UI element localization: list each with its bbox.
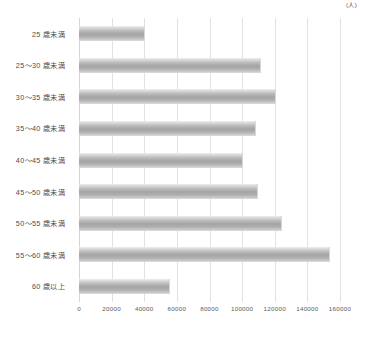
bar (79, 216, 282, 231)
value-tick-label: 100000 (231, 305, 253, 312)
value-tick-label: 0 (77, 305, 81, 312)
bar (79, 279, 170, 294)
category-label: 35～40 歳未満 (0, 113, 72, 145)
value-tick-label: 120000 (264, 305, 286, 312)
category-label: 55～60 歳未満 (0, 239, 72, 271)
bar (79, 89, 276, 104)
bar (79, 153, 243, 168)
value-axis-ticks: 0200004000060000800001000001200001400001… (79, 305, 340, 319)
value-tick-label: 140000 (296, 305, 318, 312)
bar (79, 121, 256, 136)
bar (79, 184, 258, 199)
bar-row (79, 176, 340, 208)
category-label: 60 歳以上 (0, 271, 72, 303)
category-label: 25～30 歳未満 (0, 50, 72, 82)
value-tick-label: 80000 (200, 305, 219, 312)
value-axis-unit: (人) (346, 0, 357, 9)
bar (79, 26, 145, 41)
value-tick-label: 60000 (168, 305, 187, 312)
category-label: 30～35 歳未満 (0, 81, 72, 113)
bar-row (79, 271, 340, 303)
bar-row (79, 207, 340, 239)
bar-row (79, 50, 340, 82)
category-label: 45～50 歳未満 (0, 176, 72, 208)
bar-row (79, 81, 340, 113)
category-label: 50～55 歳未満 (0, 207, 72, 239)
bar (79, 58, 261, 73)
category-axis-labels: 25 歳未満25～30 歳未満30～35 歳未満35～40 歳未満40～45 歳… (0, 18, 72, 302)
bar-row (79, 144, 340, 176)
bar-row (79, 113, 340, 145)
bar (79, 247, 330, 262)
category-label: 40～45 歳未満 (0, 144, 72, 176)
bar-row (79, 239, 340, 271)
value-tick-label: 20000 (102, 305, 121, 312)
value-tick-label: 40000 (135, 305, 154, 312)
bar-series (79, 18, 340, 302)
gridline (340, 18, 341, 302)
bar-chart: 25 歳未満25～30 歳未満30～35 歳未満35～40 歳未満40～45 歳… (0, 0, 380, 353)
value-tick-label: 160000 (329, 305, 351, 312)
category-label: 25 歳未満 (0, 18, 72, 50)
plot-area (79, 18, 340, 302)
bar-row (79, 18, 340, 50)
